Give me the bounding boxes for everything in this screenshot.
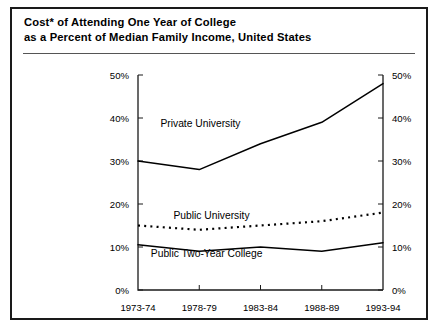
x-axis-label: 1973-74 <box>120 302 156 313</box>
x-axis-label: 1978-79 <box>182 302 217 313</box>
title-divider <box>23 53 415 54</box>
figure-frame: Cost* of Attending One Year of College a… <box>10 7 428 320</box>
chart-title-line-1: Cost* of Attending One Year of College <box>24 15 414 30</box>
y-axis-label-right: 20% <box>392 199 412 210</box>
y-axis-label-right: 10% <box>392 242 412 253</box>
y-axis-label-right: 30% <box>392 156 412 167</box>
y-axis-label-left: 30% <box>110 156 130 167</box>
y-axis-label-left: 0% <box>115 285 129 296</box>
y-axis-label-left: 20% <box>110 199 130 210</box>
y-axis-label-left: 10% <box>110 242 130 253</box>
chart-title: Cost* of Attending One Year of College a… <box>24 15 414 45</box>
y-axis-label-left: 40% <box>110 113 130 124</box>
x-axis-label: 1988-89 <box>304 302 339 313</box>
y-axis-label-right: 0% <box>392 285 406 296</box>
series-annotation-label: Public University <box>173 210 250 221</box>
series-annotation-label: Private University <box>160 118 241 129</box>
figure-page: Cost* of Attending One Year of College a… <box>0 0 438 333</box>
y-axis-label-right: 40% <box>392 113 412 124</box>
chart-title-line-2: as a Percent of Median Family Income, Un… <box>24 30 414 45</box>
plot-area: 0%0%10%10%20%20%30%30%40%40%50%50%1973-7… <box>12 61 426 318</box>
y-axis-label-right: 50% <box>392 70 412 81</box>
line-chart: 0%0%10%10%20%20%30%30%40%40%50%50%1973-7… <box>12 61 426 318</box>
x-axis-label: 1983-84 <box>243 302 279 313</box>
x-axis-label: 1993-94 <box>365 302 401 313</box>
y-axis-label-left: 50% <box>110 70 130 81</box>
series-annotation-label: Public Two-Year College <box>151 248 263 259</box>
